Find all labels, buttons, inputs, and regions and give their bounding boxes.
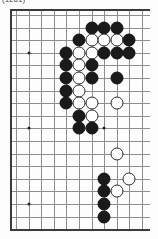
- figure-caption: (1261): [2, 0, 25, 4]
- black-stone[interactable]: [60, 97, 73, 110]
- white-stone[interactable]: [73, 72, 86, 85]
- black-stone[interactable]: [98, 198, 111, 211]
- diagram-root: (1261): [0, 0, 158, 239]
- black-stone[interactable]: [85, 21, 98, 34]
- go-board[interactable]: [10, 9, 150, 231]
- white-stone[interactable]: [85, 109, 98, 122]
- white-stone[interactable]: [123, 172, 136, 185]
- black-stone[interactable]: [73, 122, 86, 135]
- board-edge-top: [10, 9, 150, 11]
- white-stone[interactable]: [110, 147, 123, 160]
- black-stone[interactable]: [98, 46, 111, 59]
- black-stone[interactable]: [98, 172, 111, 185]
- black-stone[interactable]: [123, 34, 136, 47]
- white-stone[interactable]: [85, 34, 98, 47]
- black-stone[interactable]: [60, 84, 73, 97]
- white-stone[interactable]: [85, 97, 98, 110]
- black-stone[interactable]: [85, 59, 98, 72]
- black-stone[interactable]: [73, 34, 86, 47]
- black-stone[interactable]: [110, 72, 123, 85]
- black-stone[interactable]: [98, 21, 111, 34]
- white-stone[interactable]: [98, 34, 111, 47]
- white-stone[interactable]: [73, 84, 86, 97]
- black-stone[interactable]: [85, 122, 98, 135]
- white-stone[interactable]: [73, 59, 86, 72]
- black-stone[interactable]: [123, 46, 136, 59]
- white-stone[interactable]: [110, 34, 123, 47]
- grid-line-vertical: [16, 9, 17, 231]
- black-stone[interactable]: [60, 59, 73, 72]
- grid-line-vertical: [41, 9, 42, 231]
- grid-line-vertical: [29, 9, 30, 231]
- white-stone[interactable]: [73, 46, 86, 59]
- black-stone[interactable]: [98, 185, 111, 198]
- grid-line-vertical: [66, 9, 67, 231]
- black-stone[interactable]: [110, 46, 123, 59]
- black-stone[interactable]: [60, 46, 73, 59]
- black-stone[interactable]: [73, 109, 86, 122]
- white-stone[interactable]: [110, 185, 123, 198]
- star-point: [27, 51, 30, 54]
- grid-line-vertical: [142, 9, 143, 231]
- black-stone[interactable]: [98, 210, 111, 223]
- star-point: [27, 203, 30, 206]
- star-point: [27, 127, 30, 130]
- board-edge-left: [10, 9, 12, 231]
- star-point: [103, 127, 106, 130]
- black-stone[interactable]: [110, 21, 123, 34]
- grid-line-vertical: [54, 9, 55, 231]
- black-stone[interactable]: [60, 72, 73, 85]
- white-stone[interactable]: [85, 46, 98, 59]
- black-stone[interactable]: [85, 72, 98, 85]
- white-stone[interactable]: [110, 97, 123, 110]
- board-edge-bottom: [10, 229, 150, 231]
- white-stone[interactable]: [73, 97, 86, 110]
